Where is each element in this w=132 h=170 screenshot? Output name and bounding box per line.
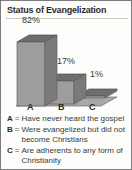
legend-item: A = Have never heard the gospel (7, 114, 129, 124)
bar-value-label-B: 17% (57, 56, 75, 66)
chart-card: Status of Evangelization 82% 17% 1% A B … (0, 0, 132, 170)
chart-plot-area: 82% 17% 1% A B C (1, 19, 132, 111)
legend-separator: = (13, 146, 22, 156)
category-label-C: C (89, 102, 96, 112)
legend-separator: = (13, 114, 22, 124)
bar-A-front (17, 42, 45, 106)
legend-description-C: Are adherents to any form of Christianit… (21, 146, 129, 166)
legend-description-A: Have never heard the gospel (21, 114, 129, 124)
legend-description-B: Were evangelized but did not become Chri… (21, 125, 129, 145)
bar-value-label-A: 82% (22, 15, 40, 25)
legend-item: B = Were evangelized but did not become … (7, 125, 129, 145)
category-label-A: A (27, 102, 34, 112)
bar-value-label-C: 1% (90, 69, 103, 79)
page-title: Status of Evangelization (7, 5, 106, 15)
bar-A-side (45, 35, 57, 106)
category-label-B: B (58, 102, 65, 112)
chart-legend: A = Have never heard the gospel B = Were… (7, 114, 129, 167)
legend-separator: = (13, 125, 22, 135)
legend-item: C = Are adherents to any form of Christi… (7, 146, 129, 166)
